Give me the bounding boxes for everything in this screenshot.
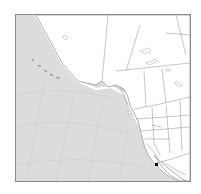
- map-canvas: [16, 15, 190, 181]
- map-frame[interactable]: [15, 14, 191, 182]
- location-dot-icon[interactable]: [155, 163, 158, 166]
